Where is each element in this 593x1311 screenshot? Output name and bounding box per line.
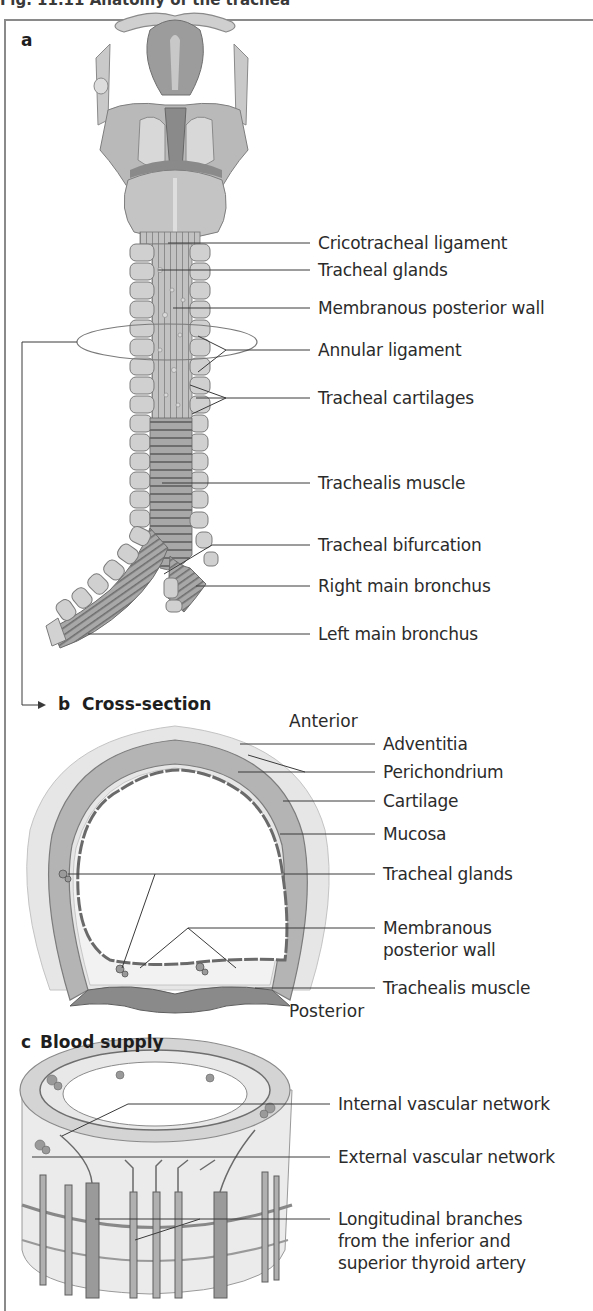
panel-b-letter: b <box>58 694 70 714</box>
label-right-main-bronchus: Right main bronchus <box>318 575 491 597</box>
arrow-to-cross-section-icon <box>38 701 46 709</box>
panel-c-title: Blood supply <box>40 1032 164 1052</box>
cross-section-illustration <box>27 726 329 1013</box>
panel-c-letter: c <box>21 1032 31 1052</box>
label-adventitia: Adventitia <box>383 733 468 755</box>
label-internal-vascular-network: Internal vascular network <box>338 1093 550 1115</box>
panel-a-letter: a <box>21 30 32 50</box>
label-cartilage: Cartilage <box>383 790 458 812</box>
label-cricotracheal-ligament: Cricotracheal ligament <box>318 232 507 254</box>
blood-supply-illustration <box>20 1038 292 1298</box>
label-membranous-posterior-wall: Membranous posterior wall <box>318 297 545 319</box>
label-tracheal-bifurcation: Tracheal bifurcation <box>318 534 482 556</box>
label-trachealis-muscle-cross: Trachealis muscle <box>383 977 530 999</box>
label-tracheal-cartilages: Tracheal cartilages <box>318 387 474 409</box>
label-tracheal-glands: Tracheal glands <box>318 259 448 281</box>
label-trachealis-muscle: Trachealis muscle <box>318 472 465 494</box>
trachea-illustration <box>46 244 257 648</box>
label-longitudinal-branches: Longitudinal branches from the inferior … <box>338 1208 553 1274</box>
label-annular-ligament: Annular ligament <box>318 339 461 361</box>
label-perichondrium: Perichondrium <box>383 761 503 783</box>
panel-b-title: Cross-section <box>82 694 211 714</box>
label-left-main-bronchus: Left main bronchus <box>318 623 478 645</box>
larynx-illustration <box>94 13 248 244</box>
label-tracheal-glands-cross: Tracheal glands <box>383 863 513 885</box>
label-membranous-posterior-wall-cross: Membranous posterior wall <box>383 917 513 961</box>
label-external-vascular-network: External vascular network <box>338 1146 555 1168</box>
orientation-posterior: Posterior <box>289 1001 364 1021</box>
label-mucosa: Mucosa <box>383 823 446 845</box>
orientation-anterior: Anterior <box>289 711 358 731</box>
